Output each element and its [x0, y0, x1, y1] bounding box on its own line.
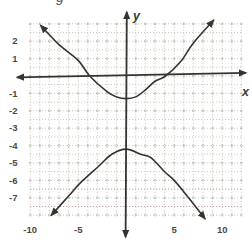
y-tick-label: -1: [9, 88, 18, 99]
y-tick-label: -4: [9, 140, 18, 151]
y-axis: [126, 12, 127, 237]
y-tick-label: -6: [9, 175, 17, 186]
grid-dot: [106, 58, 108, 60]
axes: [17, 12, 246, 237]
grid-dot: [154, 145, 156, 147]
y-tick-label: -7: [9, 192, 17, 203]
x-tick-label: -5: [74, 224, 83, 235]
grid-dot: [58, 58, 60, 60]
grid-dot: [202, 58, 204, 60]
y-tick-label: 2: [12, 35, 17, 46]
grid-dot: [58, 145, 60, 147]
y-tick-label: 1: [12, 53, 18, 64]
hyperbola-graph: 21-1-2-3-4-5-6-7-10-5510 y x: [0, 0, 252, 242]
x-tick-label: 10: [217, 224, 228, 235]
grid-dot: [202, 145, 204, 147]
x-axis-label: x: [241, 85, 250, 99]
x-tick-label: -10: [23, 224, 37, 235]
hyperbola-lower-branch: [51, 149, 205, 219]
grid-dot: [154, 58, 156, 60]
y-tick-label: -5: [9, 157, 18, 168]
grid: [29, 23, 242, 216]
x-tick-label: 5: [172, 224, 178, 235]
grid-dot: [106, 145, 108, 147]
worksheet-page: g 21-1-2-3-4-5-6-7-10-5510 y x: [0, 0, 252, 242]
y-axis-label: y: [132, 9, 141, 23]
y-tick-label: -2: [9, 105, 17, 116]
y-tick-label: -3: [9, 122, 17, 133]
